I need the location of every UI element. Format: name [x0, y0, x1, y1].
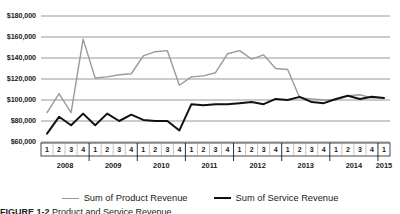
legend-line-product-icon	[62, 198, 79, 199]
x-axis-quarter-label: 2	[197, 146, 209, 153]
x-axis-quarter-label: 3	[306, 146, 318, 153]
x-axis-quarter-label: 2	[294, 146, 306, 153]
x-axis-quarter-label: 4	[125, 146, 137, 153]
line-chart-svg	[0, 0, 400, 165]
figure-caption: FIGURE 1-2 Product and Service Revenue	[0, 207, 400, 214]
chart-legend: Sum of Product Revenue Sum of Service Re…	[0, 190, 400, 206]
y-axis-tick-label: $140,000	[0, 54, 36, 61]
x-axis-quarter-label: 2	[149, 146, 161, 153]
x-axis-quarter-label: 4	[222, 146, 234, 153]
y-axis-tick-label: $120,000	[0, 75, 36, 82]
y-axis-tick-label: $60,000	[0, 138, 36, 145]
y-axis-tick-label: $160,000	[0, 33, 36, 40]
x-axis-quarter-label: 3	[258, 146, 270, 153]
series-line-service-revenue	[47, 96, 384, 134]
x-axis-quarter-label: 1	[378, 146, 390, 153]
x-axis-quarter-label: 3	[113, 146, 125, 153]
chart-plot-area: $180,000$160,000$140,000$120,000$100,000…	[0, 0, 400, 165]
x-axis-quarter-label: 4	[77, 146, 89, 153]
x-axis-year-label: 2015	[372, 162, 396, 169]
figure-caption-text: Product and Service Revenue	[52, 207, 172, 214]
x-axis-quarter-label: 3	[209, 146, 221, 153]
x-axis-quarter-label: 1	[137, 146, 149, 153]
legend-item-product: Sum of Product Revenue	[62, 193, 188, 203]
x-axis-quarter-label: 1	[330, 146, 342, 153]
figure-caption-prefix: FIGURE 1-2	[0, 207, 50, 214]
x-axis-quarter-label: 2	[342, 146, 354, 153]
x-axis-quarter-label: 2	[53, 146, 65, 153]
x-axis-quarter-label: 3	[354, 146, 366, 153]
x-axis-quarter-label: 4	[173, 146, 185, 153]
x-axis-quarter-label: 4	[318, 146, 330, 153]
series-lines-group	[47, 39, 384, 134]
x-axis-quarter-label: 1	[41, 146, 53, 153]
y-axis-tick-label: $180,000	[0, 12, 36, 19]
series-line-product-revenue	[47, 39, 384, 113]
legend-label-product: Sum of Product Revenue	[84, 193, 188, 203]
x-axis-quarter-label: 1	[89, 146, 101, 153]
x-axis-quarter-label: 3	[161, 146, 173, 153]
figure-container: $180,000$160,000$140,000$120,000$100,000…	[0, 0, 400, 214]
legend-item-service: Sum of Service Revenue	[214, 193, 339, 203]
y-axis-labels: $180,000$160,000$140,000$120,000$100,000…	[0, 0, 36, 165]
x-axis-quarter-label: 4	[270, 146, 282, 153]
x-axis-quarter-label: 4	[366, 146, 378, 153]
x-axis-quarter-label: 1	[234, 146, 246, 153]
x-axis-quarter-label: 1	[185, 146, 197, 153]
y-axis-tick-label: $100,000	[0, 96, 36, 103]
x-axis-quarter-label: 2	[246, 146, 258, 153]
legend-line-service-icon	[214, 197, 231, 199]
x-axis-quarter-label: 2	[101, 146, 113, 153]
x-axis-quarter-label: 3	[65, 146, 77, 153]
y-axis-tick-label: $80,000	[0, 117, 36, 124]
x-axis-quarter-label: 1	[282, 146, 294, 153]
legend-label-service: Sum of Service Revenue	[236, 193, 339, 203]
